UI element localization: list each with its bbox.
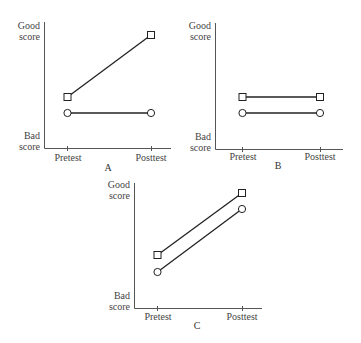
- y-label-good-score: score: [109, 190, 131, 201]
- x-label-pretest: Pretest: [144, 311, 171, 322]
- square-marker: [239, 94, 246, 101]
- panel-a: Good score Bad score Pretest Posttest A: [18, 20, 171, 173]
- figure-canvas: Good score Bad score Pretest Posttest A …: [0, 0, 361, 343]
- y-label-good-score: score: [19, 31, 41, 42]
- y-label-good: Good: [18, 20, 40, 31]
- x-label-posttest: Posttest: [304, 151, 335, 162]
- x-label-posttest: Posttest: [226, 311, 257, 322]
- circle-marker: [239, 109, 246, 116]
- square-marker: [317, 94, 324, 101]
- square-series-line: [68, 35, 152, 97]
- axes: [135, 183, 263, 309]
- y-label-bad-score: score: [109, 301, 131, 312]
- panel-label: B: [275, 160, 282, 171]
- y-label-bad: Bad: [114, 290, 130, 301]
- y-label-good-score: score: [190, 31, 212, 42]
- square-marker: [148, 32, 155, 39]
- square-series-line: [158, 193, 243, 255]
- y-label-bad-score: score: [190, 142, 212, 153]
- circle-series-line: [158, 209, 243, 272]
- circle-marker: [64, 109, 71, 116]
- x-label-pretest: Pretest: [229, 151, 256, 162]
- circle-marker: [147, 109, 154, 116]
- panel-c: Good score Bad score Pretest Posttest C: [108, 179, 262, 331]
- panel-label: C: [194, 320, 201, 331]
- axes: [216, 23, 344, 150]
- circle-marker: [316, 109, 323, 116]
- circle-marker: [154, 268, 161, 275]
- square-marker: [239, 190, 246, 197]
- y-label-bad-score: score: [19, 141, 41, 152]
- square-marker: [64, 94, 71, 101]
- circle-marker: [238, 205, 245, 212]
- y-label-bad: Bad: [24, 130, 40, 141]
- x-label-pretest: Pretest: [54, 152, 81, 163]
- panel-label: A: [104, 162, 112, 173]
- x-label-posttest: Posttest: [135, 152, 166, 163]
- y-label-good: Good: [108, 179, 130, 190]
- square-marker: [154, 252, 161, 259]
- panel-b: Good score Bad score Pretest Posttest B: [189, 20, 343, 171]
- axes: [45, 22, 172, 149]
- y-label-good: Good: [189, 20, 211, 31]
- y-label-bad: Bad: [195, 131, 211, 142]
